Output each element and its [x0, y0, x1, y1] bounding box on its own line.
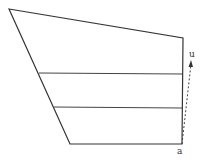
label-a: a	[177, 147, 182, 156]
quadrilateral-outline	[9, 9, 183, 144]
arrowhead-icon	[189, 60, 194, 67]
horizontal-line-lower	[54, 107, 182, 108]
horizontal-line-upper	[39, 73, 182, 74]
diagram-canvas	[0, 0, 201, 164]
dashed-vector	[182, 64, 191, 144]
label-u: u	[189, 50, 195, 59]
